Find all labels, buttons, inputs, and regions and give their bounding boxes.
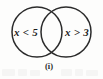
figure-caption: (i) — [45, 61, 53, 71]
venn-label-right: x > 3 — [64, 26, 89, 38]
venn-diagram-figure: x < 5 x > 3 (i) — [0, 0, 103, 79]
venn-diagram-canvas: x < 5 x > 3 (i) — [0, 0, 103, 79]
venn-label-left: x < 5 — [13, 26, 38, 38]
